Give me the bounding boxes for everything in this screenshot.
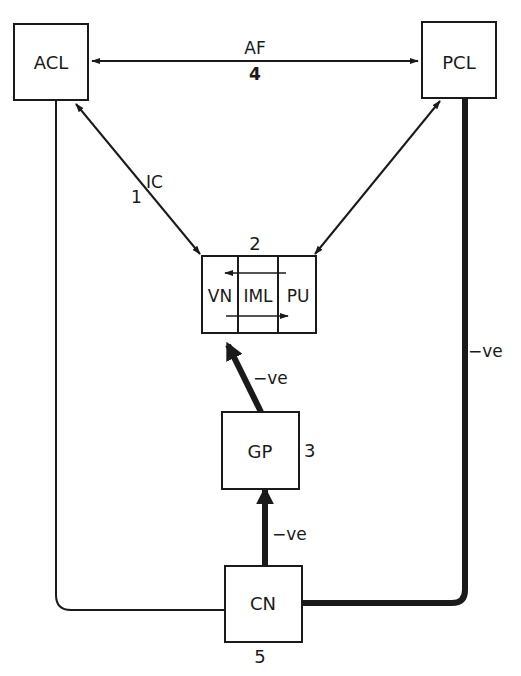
edge-acl-cn [56,101,233,610]
node-thalamus-number: 2 [249,233,260,254]
segment-vn: VN [208,286,232,306]
edge-gp-thalamus-label: −ve [253,368,288,388]
edge-af-number: 4 [249,64,261,84]
segment-iml: IML [243,286,273,306]
node-gp: GP 3 [222,412,315,489]
edge-cn-gp: −ve [265,490,307,566]
node-acl-label: ACL [34,52,69,73]
edge-gp-thalamus: −ve [228,345,288,412]
edge-af-label: AF [244,38,265,58]
edge-cn-gp-label: −ve [272,524,307,544]
node-gp-number: 3 [304,440,315,461]
segment-pu: PU [287,286,310,306]
edge-ic-label: IC [146,172,163,192]
diagram-canvas: AF 4 IC 1 −ve −ve −ve ACL PCL 2 [0,0,521,676]
edge-pcl-thalamus [315,101,440,254]
node-pcl-label: PCL [442,52,475,73]
node-acl: ACL [14,24,88,100]
node-cn-label: CN [250,593,276,614]
node-cn: CN 5 [225,566,302,667]
edge-pcl-cn: −ve [278,99,503,603]
edge-ic: IC 1 [76,104,200,254]
edge-ic-number: 1 [131,187,142,207]
node-thalamus: 2 VN IML PU [202,233,316,333]
edge-af: AF 4 [92,38,418,84]
node-cn-number: 5 [254,646,265,667]
node-pcl: PCL [422,22,496,98]
edge-pcl-cn-label: −ve [468,341,503,361]
node-gp-label: GP [248,441,273,462]
